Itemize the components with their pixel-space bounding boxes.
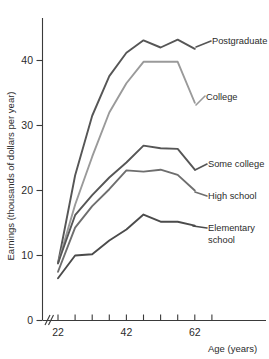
series-layer: [58, 40, 195, 279]
leader-elementary: [193, 226, 207, 228]
leader-college: [196, 96, 205, 105]
y-tick-label-40: 40: [21, 54, 33, 66]
y-axis-title: Earnings (thousands of dollars per year): [5, 92, 16, 261]
series-label-some-college: Some college: [208, 159, 264, 169]
x-tick-label-22: 22: [52, 326, 64, 338]
y-tick-label-0: 0: [27, 314, 33, 326]
series-label-college: College: [206, 92, 238, 102]
y-tick-marks: [37, 61, 43, 321]
series-label-elementary-2: school: [208, 235, 235, 245]
earnings-by-education-chart: 0 10 20 30 40 22 42 62 Age (years) Earni…: [0, 0, 269, 359]
x-tick-label-42: 42: [121, 326, 133, 338]
series-label-elementary-1: Elementary: [208, 223, 255, 233]
x-axis-title: Age (years): [208, 343, 257, 354]
chart-canvas: 0 10 20 30 40 22 42 62 Age (years) Earni…: [0, 0, 269, 359]
leader-postgraduate: [196, 41, 211, 47]
y-tick-label-20: 20: [21, 184, 33, 196]
series-line-high-school: [58, 170, 195, 272]
leader-some-college: [195, 164, 207, 170]
leader-high-school: [195, 192, 207, 196]
y-tick-label-30: 30: [21, 119, 33, 131]
series-label-postgraduate: Postgraduate: [212, 36, 267, 46]
y-tick-label-10: 10: [21, 249, 33, 261]
x-tick-label-62: 62: [189, 326, 201, 338]
x-tick-marks: [58, 315, 212, 321]
series-label-high-school: High school: [208, 191, 257, 201]
